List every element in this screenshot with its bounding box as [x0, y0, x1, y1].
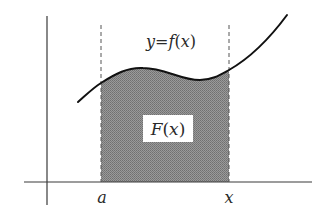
area-under-curve-diagram: F(x) y=f(x) a x	[0, 0, 330, 218]
label-x: x	[224, 188, 233, 207]
label-a: a	[97, 188, 107, 207]
area-label: F(x)	[150, 119, 186, 139]
curve-label: y=f(x)	[145, 32, 196, 51]
